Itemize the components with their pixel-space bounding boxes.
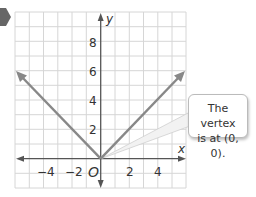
x-axis-right-arrow-icon (178, 156, 186, 162)
callout-line-1: The vertex (189, 101, 247, 131)
hexagon-marker-icon (0, 8, 11, 26)
x-axis-left-arrow-icon (16, 156, 24, 162)
origin-label: O (88, 164, 99, 180)
x-tick-2: 2 (126, 165, 134, 179)
y-axis-label: y (105, 12, 114, 26)
y-axis-down-arrow-icon (98, 180, 104, 188)
y-tick-6: 6 (89, 65, 97, 79)
y-tick-8: 8 (89, 36, 97, 50)
callout-pointer (101, 112, 190, 159)
x-axis-label: x (177, 142, 186, 156)
y-axis-up-arrow-icon (98, 13, 104, 21)
x-tick-minus-2: −2 (65, 165, 83, 179)
vertex-callout: The vertex is at (0, 0). (188, 94, 248, 138)
callout-line-2: is at (0, 0). (189, 131, 247, 161)
x-tick-minus-4: −4 (37, 165, 55, 179)
y-tick-4: 4 (89, 94, 97, 108)
x-tick-4: 4 (154, 165, 162, 179)
y-tick-2: 2 (89, 123, 97, 137)
